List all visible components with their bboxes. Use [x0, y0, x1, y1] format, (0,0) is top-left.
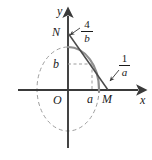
- leader-arrow-lower: [110, 70, 119, 81]
- annotation-one-over-a: 1 a: [119, 53, 130, 78]
- x-axis-label: x: [140, 94, 145, 106]
- tick-label-a: a: [87, 93, 93, 105]
- annotation-four-over-b: 4 b: [81, 19, 93, 44]
- fraction-denominator: b: [81, 32, 93, 44]
- y-axis-label: y: [57, 5, 62, 17]
- fraction-numerator: 1: [119, 53, 130, 65]
- geometry-diagram: [0, 0, 152, 160]
- fraction-numerator: 4: [81, 19, 93, 31]
- point-label-N: N: [52, 26, 60, 38]
- tick-label-b: b: [53, 58, 59, 70]
- figure-container: y x O N M b a 4 b 1 a: [0, 0, 152, 160]
- point-label-M: M: [102, 93, 112, 105]
- leader-arrow-upper: [70, 28, 80, 35]
- fraction-denominator: a: [119, 66, 130, 78]
- origin-label: O: [53, 94, 62, 106]
